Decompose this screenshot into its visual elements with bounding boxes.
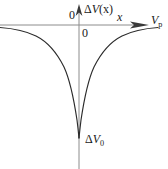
well-depth-delta-symbol: Δ <box>85 132 93 146</box>
potential-curve-right-branch <box>79 28 158 139</box>
well-depth-label: ΔV0 <box>85 133 104 148</box>
v-symbol: V <box>92 2 99 16</box>
vp-axis-end-label: Vp <box>151 14 162 29</box>
y-axis-argument: (x) <box>99 2 113 16</box>
origin-zero-label-top: 0 <box>69 9 75 21</box>
potential-well-figure: 0 ΔV(x) x Vp 0 ΔV0 <box>0 0 168 169</box>
potential-curve-left-branch <box>0 28 79 139</box>
origin-zero-label-below: 0 <box>82 27 88 39</box>
delta-symbol: Δ <box>84 2 92 16</box>
vp-subscript: p <box>158 20 162 29</box>
y-axis-title: ΔV(x) <box>84 3 113 15</box>
x-axis-title: x <box>117 11 122 23</box>
well-depth-subscript: 0 <box>100 139 104 148</box>
well-depth-v-symbol: V <box>93 132 100 146</box>
